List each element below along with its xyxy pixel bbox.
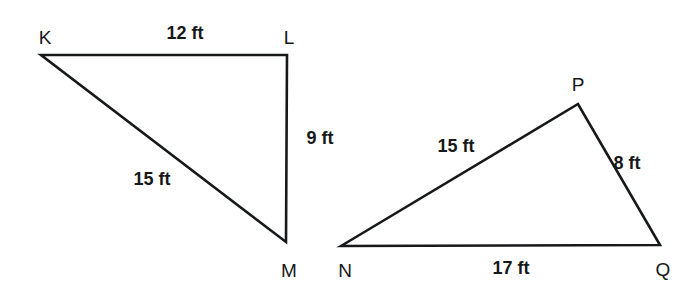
geometry-figure-canvas: K L M 12 ft 9 ft 15 ft N P Q 15 ft 8 ft … [0,0,700,292]
vertex-label-p: P [572,75,585,94]
triangle-klm-outline [41,55,287,242]
side-label-kl: 12 ft [166,24,203,42]
side-label-km: 15 ft [133,170,170,188]
vertex-label-q: Q [656,260,671,279]
side-label-np: 15 ft [437,137,474,155]
vertex-label-k: K [39,28,52,47]
triangles-drawing [0,0,700,292]
side-label-nq: 17 ft [492,259,529,277]
triangle-npq-outline [341,104,660,246]
vertex-label-m: M [281,261,297,280]
vertex-label-l: L [284,28,295,47]
side-label-lm: 9 ft [307,129,334,147]
side-label-pq: 8 ft [614,154,641,172]
vertex-label-n: N [338,261,352,280]
